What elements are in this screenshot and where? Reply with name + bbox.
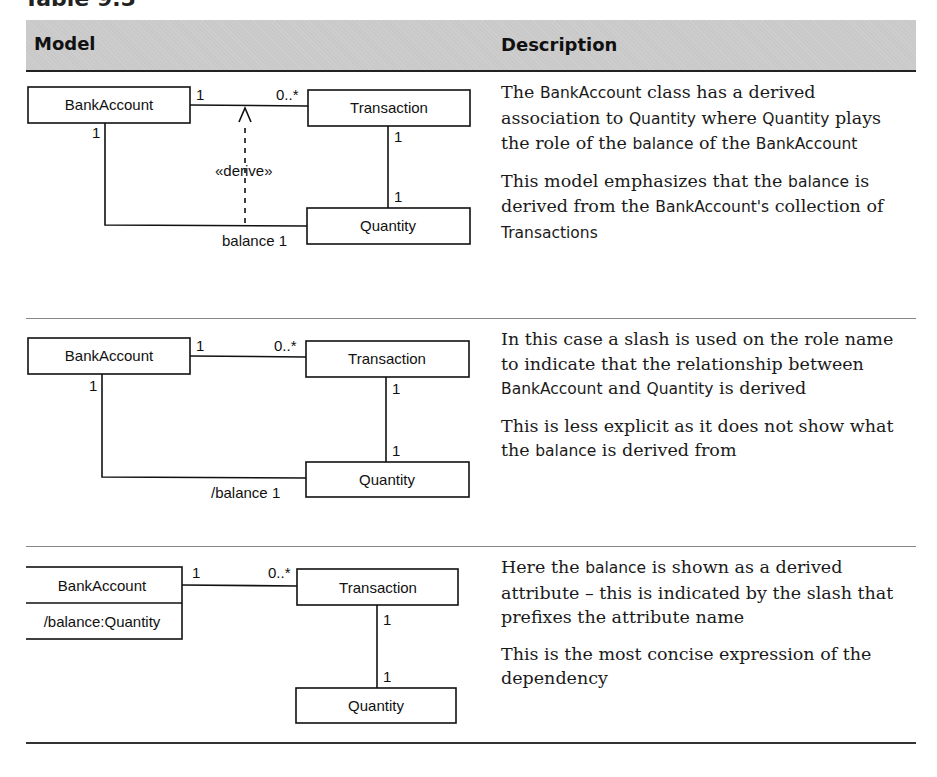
description-paragraph: The BankAccount class has a derived asso… [501, 80, 911, 157]
code-term: Quantity [762, 110, 829, 128]
code-term: balance [585, 559, 646, 577]
text-run: Here the [501, 557, 585, 577]
uml-diagram-derived-attribute: BankAccount /balance:Quantity Transactio… [26, 547, 486, 742]
table-row: BankAccount /balance:Quantity Transactio… [26, 547, 916, 744]
svg-text:1: 1 [392, 380, 400, 397]
table-header: Model Description [26, 20, 916, 72]
svg-text:1: 1 [89, 377, 97, 394]
code-term: BankAccount's [655, 198, 769, 216]
svg-text:1: 1 [394, 128, 402, 145]
table-title: Table 9.5 [24, 0, 136, 11]
svg-text:BankAccount: BankAccount [58, 577, 147, 594]
text-run: is derived [714, 378, 807, 398]
svg-text:1: 1 [196, 337, 204, 354]
code-term: BankAccount [501, 380, 603, 398]
svg-text:Transaction: Transaction [348, 350, 426, 367]
header-description: Description [501, 34, 617, 55]
svg-text:1: 1 [92, 124, 100, 141]
uml-diagram-slash-role: BankAccount Transaction Quantity 1 0..* … [26, 319, 486, 546]
description-cell: In this case a slash is used on the role… [501, 327, 911, 476]
svg-text:/balance:Quantity: /balance:Quantity [44, 613, 161, 630]
uml-diagram-derive: BankAccount Transaction Quantity 1 0..* … [26, 72, 486, 318]
code-term: balance [632, 135, 693, 153]
description-paragraph: This is less explicit as it does not sho… [501, 414, 911, 464]
svg-text:1: 1 [196, 86, 204, 103]
svg-text:/balance 1: /balance 1 [211, 484, 280, 501]
svg-text:Quantity: Quantity [348, 697, 404, 714]
svg-text:Quantity: Quantity [359, 471, 415, 488]
svg-text:BankAccount: BankAccount [65, 96, 154, 113]
text-run: where [696, 108, 762, 128]
code-term: balance [535, 442, 596, 460]
code-term: balance [788, 173, 849, 191]
code-term: BankAccount [540, 84, 642, 102]
description-paragraph: Here the balance is shown as a derived a… [501, 555, 911, 630]
svg-text:Transaction: Transaction [339, 579, 417, 596]
svg-text:1: 1 [392, 442, 400, 459]
svg-text:balance 1: balance 1 [222, 232, 287, 249]
text-run: and [603, 378, 647, 398]
svg-text:0..*: 0..* [274, 337, 297, 354]
text-run: This is the most concise expression of t… [501, 644, 871, 689]
text-run: collection of [769, 196, 883, 216]
text-run: This model emphasizes that the [501, 171, 788, 191]
description-paragraph: This is the most concise expression of t… [501, 642, 911, 691]
code-term: BankAccount [756, 135, 858, 153]
svg-text:0..*: 0..* [276, 86, 299, 103]
code-term: Transactions [501, 224, 598, 242]
comparison-table: Model Description BankAccount Transactio… [26, 20, 916, 744]
svg-text:1: 1 [394, 188, 402, 205]
code-term: Quantity [629, 110, 696, 128]
text-run: is derived from [596, 440, 736, 460]
text-run: The [501, 82, 540, 102]
svg-text:1: 1 [383, 611, 391, 628]
description-cell: The BankAccount class has a derived asso… [501, 80, 911, 257]
table-row: BankAccount Transaction Quantity 1 0..* … [26, 72, 916, 319]
svg-text:Quantity: Quantity [360, 217, 416, 234]
code-term: Quantity [647, 380, 714, 398]
description-paragraph: In this case a slash is used on the role… [501, 327, 911, 402]
svg-text:0..*: 0..* [268, 564, 291, 581]
svg-text:BankAccount: BankAccount [65, 347, 154, 364]
description-paragraph: This model emphasizes that the balance i… [501, 169, 911, 246]
svg-text:1: 1 [192, 564, 200, 581]
svg-text:«derive»: «derive» [215, 162, 273, 179]
header-model: Model [34, 33, 96, 54]
text-run: In this case a slash is used on the role… [501, 329, 893, 374]
description-cell: Here the balance is shown as a derived a… [501, 555, 911, 703]
table-row: BankAccount Transaction Quantity 1 0..* … [26, 319, 916, 547]
text-run: of the [693, 133, 755, 153]
svg-text:1: 1 [383, 668, 391, 685]
svg-text:Transaction: Transaction [350, 99, 428, 116]
